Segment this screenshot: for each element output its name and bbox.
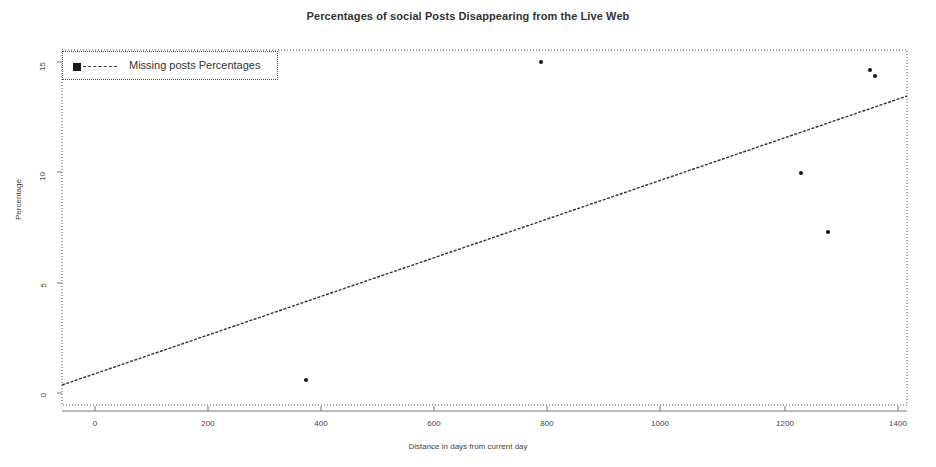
x-tick-label-600: 600 [427,419,440,428]
x-axis-ticks [95,406,898,411]
data-point [304,378,308,382]
data-point [868,68,872,72]
legend-entry-label: Missing posts Percentages [129,59,260,71]
x-tick-label-800: 800 [540,419,553,428]
y-axis-ticks [57,62,62,393]
x-tick-label-0: 0 [93,419,97,428]
legend-marker-icon [73,63,81,71]
y-tick-label-5: 5 [39,283,48,287]
x-tick-label-1000: 1000 [651,419,669,428]
y-tick-label-10: 10 [39,172,48,181]
trendline [62,96,907,385]
data-point [539,60,543,64]
x-tick-label-400: 400 [314,419,327,428]
data-point [826,230,830,234]
x-tick-label-1400: 1400 [889,419,907,428]
chart-figure: Percentages of social Posts Disappearing… [0,0,936,467]
x-tick-label-1200: 1200 [776,419,794,428]
data-point [873,74,877,78]
y-tick-label-0: 0 [39,393,48,397]
plot-frame [62,50,907,405]
x-tick-label-200: 200 [201,419,214,428]
y-tick-label-15: 15 [39,62,48,71]
legend: Missing posts Percentages [62,51,278,80]
legend-line-icon [83,66,117,67]
data-point [799,171,803,175]
